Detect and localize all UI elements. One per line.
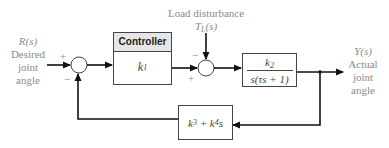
output-signal: Y(s) — [343, 45, 383, 58]
junction1-plus-sign: + — [60, 51, 66, 62]
disturbance-signal: TL(s) — [166, 20, 246, 33]
plant-block: k2 s(τs + 1) — [242, 53, 297, 87]
plant-denominator: s(τs + 1) — [250, 73, 288, 85]
feedback-block: k3 + k4s — [178, 105, 233, 140]
input-signal: R(s) — [8, 35, 48, 48]
output-label: Y(s) Actual joint angle — [343, 45, 383, 97]
block-diagram: R(s) Desired joint angle + − Controller … — [0, 0, 389, 148]
feedback-transfer-function: k3 + k4s — [179, 106, 232, 139]
fraction-bar — [247, 70, 293, 71]
input-label: R(s) Desired joint angle — [8, 35, 48, 87]
controller-title: Controller — [114, 33, 171, 52]
controller-gain: k1 — [114, 51, 171, 84]
plant-transfer-function: k2 s(τs + 1) — [243, 54, 296, 86]
plant-numerator: k2 — [261, 56, 278, 68]
summing-junction-1 — [71, 57, 87, 73]
summing-junction-2 — [198, 60, 214, 76]
controller-block: Controller k1 — [113, 32, 172, 85]
disturbance-label: Load disturbance TL(s) — [166, 7, 246, 33]
junction2-plus-sign: + — [188, 73, 194, 84]
junction2-minus-sign: − — [192, 50, 198, 61]
junction1-minus-sign: − — [64, 74, 70, 85]
